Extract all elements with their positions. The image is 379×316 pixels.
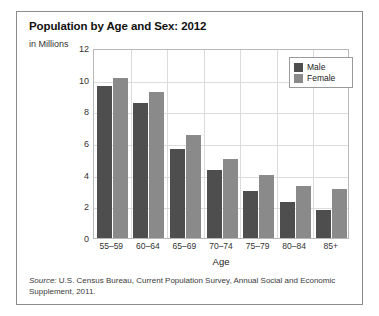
y-tick-label-8: 8	[59, 107, 89, 117]
bar-male-65–69	[170, 149, 185, 238]
page-title: Population by Age and Sex: 2012	[29, 20, 206, 32]
legend-swatch-male-icon	[294, 63, 303, 72]
y-tick-label-10: 10	[59, 76, 89, 86]
legend-item-female: Female	[294, 73, 348, 83]
bar-female-60–64	[149, 92, 164, 238]
bar-female-80–84	[296, 186, 311, 238]
source-text: U.S. Census Bureau, Current Population S…	[29, 276, 335, 296]
bar-female-75–79	[259, 175, 274, 238]
x-axis-title: Age	[93, 256, 349, 267]
chart-legend: Male Female	[289, 57, 353, 88]
gridline-x-5	[277, 50, 278, 238]
gridline-x-4	[240, 50, 241, 238]
bar-male-80–84	[280, 202, 295, 238]
y-tick-label-12: 12	[59, 44, 89, 54]
bar-female-70–74	[223, 159, 238, 238]
x-tick-label-80–84: 80–84	[282, 241, 306, 251]
y-tick-label-2: 2	[59, 202, 89, 212]
figure-frame: Population by Age and Sex: 2012 in Milli…	[16, 11, 363, 305]
bar-female-55–59	[113, 78, 128, 238]
gridline-y-6	[94, 145, 348, 146]
x-axis-tick-labels: 55–5960–6465–6970–7475–7980–8485+	[93, 241, 349, 255]
bar-male-75–79	[243, 191, 258, 239]
x-tick-label-85+: 85+	[323, 241, 337, 251]
bar-female-65–69	[186, 135, 201, 238]
bar-female-85+	[332, 189, 347, 238]
bar-male-85+	[316, 210, 331, 239]
x-tick-label-70–74: 70–74	[209, 241, 233, 251]
x-tick-label-65–69: 65–69	[173, 241, 197, 251]
gridline-y-8	[94, 113, 348, 114]
y-tick-label-6: 6	[59, 139, 89, 149]
legend-item-male: Male	[294, 62, 348, 72]
source-note: Source: U.S. Census Bureau, Current Popu…	[29, 276, 351, 298]
gridline-x-2	[167, 50, 168, 238]
source-label: Source:	[29, 276, 57, 285]
x-tick-label-75–79: 75–79	[246, 241, 270, 251]
y-tick-label-0: 0	[59, 234, 89, 244]
gridline-x-1	[131, 50, 132, 238]
x-tick-label-55–59: 55–59	[99, 241, 123, 251]
bar-male-55–59	[97, 86, 112, 238]
x-tick-label-60–64: 60–64	[136, 241, 160, 251]
bar-male-70–74	[207, 170, 222, 238]
y-axis-tick-labels: 024681012	[57, 49, 89, 239]
y-tick-label-4: 4	[59, 171, 89, 181]
legend-swatch-female-icon	[294, 74, 303, 83]
legend-label-female: Female	[307, 73, 335, 83]
legend-label-male: Male	[307, 62, 325, 72]
gridline-x-3	[204, 50, 205, 238]
bar-male-60–64	[133, 103, 148, 238]
